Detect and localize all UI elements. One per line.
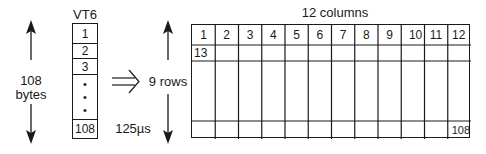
bytes-unit: bytes	[12, 88, 50, 102]
header-cell: 8	[355, 28, 378, 42]
header-cell: 5	[285, 28, 308, 42]
header-cell: 9	[378, 28, 401, 42]
dot: •	[83, 91, 87, 104]
bytes-label: 108 bytes	[12, 74, 50, 102]
header-cell: 6	[308, 28, 331, 42]
header-cell: 4	[262, 28, 285, 42]
columns-title: 12 columns	[290, 6, 380, 20]
vt6-cell: 1	[73, 24, 97, 44]
duration-label: 125µs	[110, 122, 156, 136]
header-cell: 10	[401, 28, 422, 42]
grid-lines	[192, 25, 471, 139]
byte-13-cell: 13	[194, 46, 214, 60]
byte-108-cell: 108	[448, 124, 470, 136]
vt6-title: VT6	[66, 8, 104, 22]
header-cell: 11	[425, 28, 448, 42]
header-cell: 1	[192, 28, 215, 42]
vt6-column: 1 2 3 • • • 108	[72, 23, 98, 139]
vt6-cell: 2	[73, 44, 97, 59]
bytes-count: 108	[12, 74, 50, 88]
header-cell: 2	[215, 28, 238, 42]
header-cell: 12	[448, 28, 470, 42]
vt6-ellipsis-cell: • • •	[73, 75, 97, 120]
vt6-cell: 108	[73, 120, 97, 138]
rows-label: 9 rows	[143, 75, 193, 89]
header-cell: 7	[332, 28, 355, 42]
dot: •	[83, 78, 87, 91]
vt6-cell: 3	[73, 59, 97, 75]
header-cell: 3	[239, 28, 262, 42]
frame-grid: 1 2 3 4 5 6 7 8 9 10 11 12 13 108	[191, 24, 470, 138]
dot: •	[83, 104, 87, 117]
